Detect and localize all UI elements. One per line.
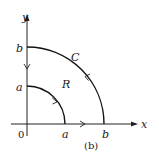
figure-caption: (b) [84, 140, 98, 151]
y-tick-b-label: b [16, 42, 23, 55]
axes [11, 14, 138, 136]
curve-c-label: C [71, 51, 80, 64]
region-boundary-diagram: y x b a 0 a b C R (b) [0, 0, 159, 157]
x-tick-b-label: b [102, 128, 109, 141]
x-tick-a-label: a [62, 128, 69, 141]
y-axis-label: y [21, 11, 29, 24]
orientation-arrows [24, 64, 90, 127]
x-axis-arrow-icon [131, 122, 138, 127]
region-r-label: R [61, 78, 70, 91]
origin-label: 0 [18, 129, 24, 140]
x-axis-label: x [141, 118, 148, 131]
inner-arc [27, 86, 65, 124]
y-tick-a-label: a [16, 81, 23, 94]
